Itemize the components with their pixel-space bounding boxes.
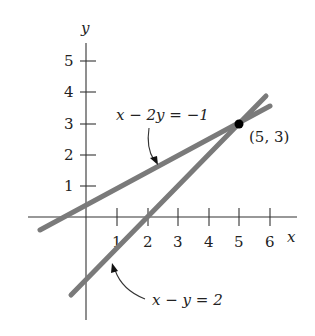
y-tick-label: 2 [64, 146, 74, 164]
line2-arrowhead [111, 263, 118, 273]
y-tick-label: 3 [64, 115, 74, 133]
intersection-label: (5, 3) [249, 128, 289, 146]
y-tick-label: 4 [64, 83, 74, 101]
x-tick-label: 6 [265, 233, 275, 251]
y-tick-label: 1 [64, 177, 74, 195]
y-ticks [80, 61, 96, 186]
intersection-point [235, 120, 244, 129]
x-axis-label: x [287, 228, 296, 246]
line2-label: x − y = 2 [152, 291, 223, 309]
x-tick-label: 2 [143, 233, 153, 251]
line1-arrowhead [150, 156, 158, 165]
line1-label: x − 2y = −1 [116, 106, 209, 124]
line1-arrow [148, 128, 154, 160]
x-tick-label: 4 [204, 233, 214, 251]
x-tick-label: 3 [173, 233, 183, 251]
y-tick-label: 5 [64, 52, 74, 70]
y-axis-label: y [80, 19, 90, 37]
chart: 1 2 3 4 5 6 1 2 3 4 5 x y (5, 3) x − 2y … [0, 0, 315, 336]
x-tick-label: 5 [234, 233, 244, 251]
line2-arrow [115, 270, 145, 299]
